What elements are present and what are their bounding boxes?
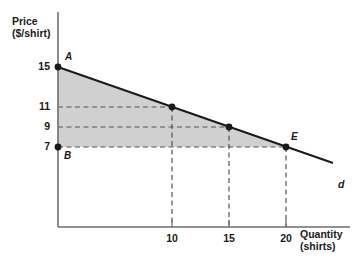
x-axis-title-line2: (shirts) bbox=[300, 240, 336, 252]
x-tick-label-10: 10 bbox=[160, 232, 184, 244]
curve-label-d: d bbox=[338, 178, 344, 190]
y-tick-label-11: 11 bbox=[28, 100, 50, 112]
y-axis-title-line2: ($/shirt) bbox=[12, 27, 51, 39]
chart-plot-area bbox=[0, 0, 364, 266]
data-point-15-9 bbox=[226, 124, 233, 131]
x-axis-title-line1: Quantity bbox=[300, 228, 343, 240]
data-point-e bbox=[283, 144, 290, 151]
data-point-10-11 bbox=[169, 104, 176, 111]
y-tick-label-7: 7 bbox=[28, 140, 50, 152]
data-point-a bbox=[55, 64, 62, 71]
point-label-b: B bbox=[64, 150, 71, 161]
x-tick-label-20: 20 bbox=[274, 232, 298, 244]
x-tick-label-15: 15 bbox=[217, 232, 241, 244]
y-tick-label-9: 9 bbox=[28, 120, 50, 132]
demand-curve-chart: Price($/shirt) Quantity(shirts) 15 11 9 … bbox=[0, 0, 364, 266]
data-point-b bbox=[55, 144, 62, 151]
y-axis-title-line1: Price bbox=[12, 15, 38, 27]
x-axis-title: Quantity(shirts) bbox=[300, 229, 343, 252]
y-tick-label-15: 15 bbox=[28, 60, 50, 72]
y-axis-title: Price($/shirt) bbox=[12, 16, 51, 39]
point-label-e: E bbox=[291, 131, 298, 142]
point-label-a: A bbox=[65, 51, 72, 62]
